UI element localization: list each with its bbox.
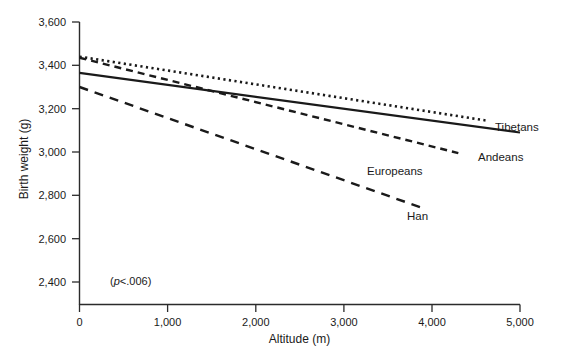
x-axis-title: Altitude (m)	[79, 332, 520, 346]
x-axis-ticks	[80, 305, 521, 313]
x-tick-label-2000: 2,000	[242, 317, 270, 328]
p-value-annotation: (p<.006)	[110, 275, 151, 287]
series-line-andeans	[80, 57, 487, 121]
series-line-han	[80, 87, 421, 207]
y-tick-label-3600: 3,600	[10, 17, 66, 28]
y-tick-label-3400: 3,400	[10, 60, 66, 71]
x-tick-label-5000: 5,000	[506, 317, 534, 328]
series-line-europeans	[80, 58, 459, 153]
series-label-han: Han	[407, 210, 428, 222]
series-line-tibetans	[80, 73, 521, 133]
series-label-europeans: Europeans	[367, 165, 423, 177]
x-tick-label-3000: 3,000	[330, 317, 358, 328]
series-label-andeans: Andeans	[478, 151, 523, 163]
data-series	[80, 57, 521, 208]
x-tick-label-4000: 4,000	[418, 317, 446, 328]
x-tick-label-1000: 1,000	[154, 317, 182, 328]
series-label-tibetans: Tibetans	[495, 121, 539, 133]
p-value-rest: <.006)	[120, 275, 152, 287]
y-tick-label-2400: 2,400	[10, 277, 66, 288]
axis-spines	[80, 22, 521, 305]
y-axis-title: Birth weight (g)	[17, 79, 31, 239]
x-tick-label-0: 0	[76, 317, 82, 328]
chart-plot-area	[0, 0, 561, 356]
chart-figure: 3,600 3,400 3,200 3,000 2,800 2,600 2,40…	[0, 0, 561, 356]
y-axis-ticks	[72, 22, 80, 282]
